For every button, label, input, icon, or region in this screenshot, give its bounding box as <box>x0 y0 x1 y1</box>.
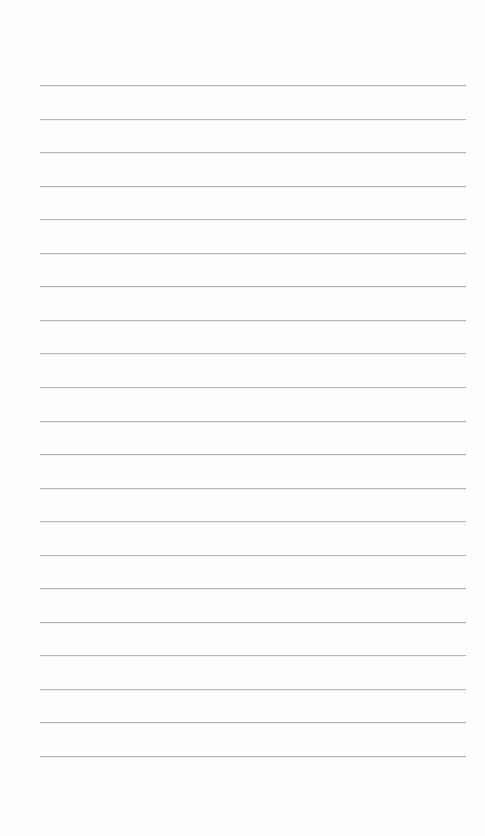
ruled-line <box>40 655 466 656</box>
ruled-line <box>40 119 466 120</box>
ruled-line <box>40 219 466 220</box>
lined-page <box>0 0 485 836</box>
ruled-line <box>40 689 466 690</box>
ruled-line <box>40 722 466 723</box>
ruled-line <box>40 588 466 589</box>
ruled-line <box>40 85 466 86</box>
ruled-line <box>40 454 466 455</box>
ruled-line <box>40 421 466 422</box>
ruled-line <box>40 186 466 187</box>
ruled-line <box>40 622 466 623</box>
ruled-line <box>40 353 466 354</box>
ruled-line <box>40 488 466 489</box>
ruled-line <box>40 387 466 388</box>
ruled-line <box>40 286 466 287</box>
ruled-line <box>40 320 466 321</box>
ruled-line <box>40 555 466 556</box>
ruled-line <box>40 756 466 757</box>
ruled-line <box>40 521 466 522</box>
ruled-line <box>40 152 466 153</box>
ruled-line <box>40 253 466 254</box>
